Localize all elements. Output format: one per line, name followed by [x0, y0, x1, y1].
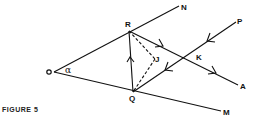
dashed-j-q [133, 59, 155, 92]
figure-caption: FIGURE 5 [2, 106, 38, 113]
label-p: P [237, 17, 243, 26]
label-a: A [240, 82, 246, 91]
arrow-icon [165, 62, 173, 71]
label-n: N [181, 3, 187, 12]
label-m: M [223, 108, 230, 117]
label-j: J [155, 55, 159, 64]
dashed-r-j [129, 31, 155, 59]
angle-alpha-label: α [65, 65, 71, 75]
arrow-icon [208, 66, 216, 74]
segment-q-r [129, 31, 133, 92]
label-k: K [196, 53, 202, 62]
ray-o-m [54, 72, 221, 111]
figure-5-diagram: R N P K J A Q M O α FIGURE 5 [0, 0, 269, 119]
label-r: R [125, 20, 131, 29]
point-o-marker [47, 70, 51, 74]
line-p-q [133, 22, 236, 92]
ray-o-n [54, 6, 179, 72]
label-q: Q [129, 94, 135, 103]
